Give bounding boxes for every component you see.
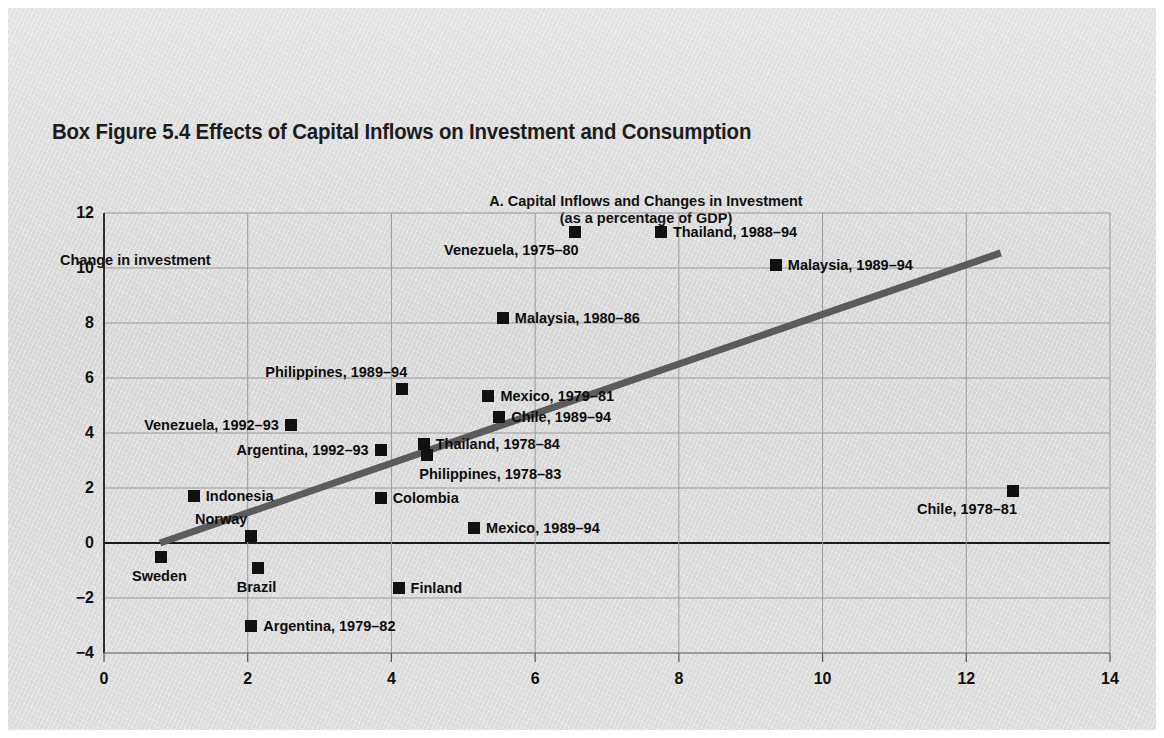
data-point-marker <box>569 226 581 238</box>
data-point-label: Chile, 1978–81 <box>917 502 1017 516</box>
data-point-label: Philippines, 1978–83 <box>419 467 561 481</box>
y-tick-label: 0 <box>48 534 94 552</box>
plot-svg <box>8 8 1156 730</box>
y-tick-label: 2 <box>48 479 94 497</box>
data-point-marker <box>497 312 509 324</box>
figure-container: Box Figure 5.4 Effects of Capital Inflow… <box>8 8 1156 730</box>
x-tick-label: 4 <box>371 670 411 688</box>
y-tick-label: 10 <box>48 259 94 277</box>
data-point-marker <box>155 551 167 563</box>
y-tick-label: −2 <box>48 589 94 607</box>
data-point-label: Colombia <box>393 491 459 505</box>
data-point-marker <box>285 419 297 431</box>
data-point-label: Malaysia, 1989–94 <box>788 258 913 272</box>
data-point-marker <box>1007 485 1019 497</box>
y-tick-label: 8 <box>48 314 94 332</box>
y-tick-label: −4 <box>48 644 94 662</box>
data-point-marker <box>375 444 387 456</box>
data-point-marker <box>770 259 782 271</box>
data-point-label: Mexico, 1989–94 <box>486 521 600 535</box>
data-point-marker <box>188 490 200 502</box>
data-point-label: Argentina, 1992–93 <box>236 443 368 457</box>
x-tick-label: 8 <box>659 670 699 688</box>
data-point-marker <box>252 562 264 574</box>
data-point-marker <box>375 492 387 504</box>
data-point-label: Argentina, 1979–82 <box>263 619 395 633</box>
y-tick-label: 4 <box>48 424 94 442</box>
data-point-marker <box>245 530 257 542</box>
data-point-marker <box>245 620 257 632</box>
x-tick-label: 6 <box>515 670 555 688</box>
data-point-label: Venezuela, 1992–93 <box>144 418 279 432</box>
x-tick-label: 10 <box>803 670 843 688</box>
x-tick-label: 12 <box>946 670 986 688</box>
y-tick-label: 6 <box>48 369 94 387</box>
x-tick-label: 2 <box>228 670 268 688</box>
data-point-marker <box>393 582 405 594</box>
data-point-label: Malaysia, 1980–86 <box>515 311 640 325</box>
x-tick-label: 0 <box>84 670 124 688</box>
data-point-label: Indonesia <box>206 489 274 503</box>
data-point-label: Philippines, 1989–94 <box>265 365 407 379</box>
data-point-marker <box>493 411 505 423</box>
data-point-label: Sweden <box>132 569 187 583</box>
data-point-label: Norway <box>195 512 247 526</box>
data-point-label: Chile, 1989–94 <box>511 410 611 424</box>
data-point-label: Finland <box>411 581 463 595</box>
data-point-label: Thailand, 1978–84 <box>436 437 560 451</box>
y-tick-label: 12 <box>48 204 94 222</box>
data-point-marker <box>482 390 494 402</box>
data-point-label: Brazil <box>237 580 277 594</box>
data-point-marker <box>421 449 433 461</box>
data-point-marker <box>655 226 667 238</box>
data-point-label: Mexico, 1979–81 <box>500 389 614 403</box>
x-tick-label: 14 <box>1090 670 1130 688</box>
data-point-marker <box>468 522 480 534</box>
data-point-label: Venezuela, 1975–80 <box>444 243 579 257</box>
data-point-marker <box>396 383 408 395</box>
scatter-plot: 121086420−2−402468101214Thailand, 1988–9… <box>8 8 1156 730</box>
data-point-label: Thailand, 1988–94 <box>673 225 797 239</box>
